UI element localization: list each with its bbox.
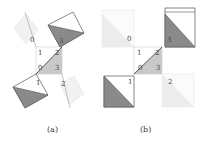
label-quad-2: 2 [168, 78, 172, 86]
panel-a: 0 3 1 2 1 2 0 3 (a) [13, 12, 84, 134]
label-center-1: 1 [137, 49, 141, 57]
label-center-0: 0 [138, 64, 142, 72]
label-quad-2: 2 [61, 80, 65, 88]
label-center-3: 3 [55, 64, 59, 72]
panel-b: 0 3 1 2 1 2 0 3 (b) [102, 8, 195, 134]
label-center-2: 2 [155, 49, 159, 57]
label-quad-0: 0 [30, 36, 34, 44]
label-quad-0: 0 [127, 35, 131, 43]
label-center-0: 0 [38, 64, 42, 72]
caption-b: (b) [140, 125, 151, 134]
label-center-1: 1 [38, 49, 42, 57]
figure: 0 3 1 2 1 2 0 3 (a) 0 3 1 2 1 2 0 3 [0, 0, 204, 141]
label-center-2: 2 [55, 49, 59, 57]
label-quad-1: 1 [128, 78, 132, 86]
label-quad-3: 3 [59, 37, 63, 45]
label-center-3: 3 [156, 64, 160, 72]
label-quad-3: 3 [167, 36, 171, 44]
label-quad-1: 1 [36, 79, 40, 87]
caption-a: (a) [47, 125, 58, 134]
